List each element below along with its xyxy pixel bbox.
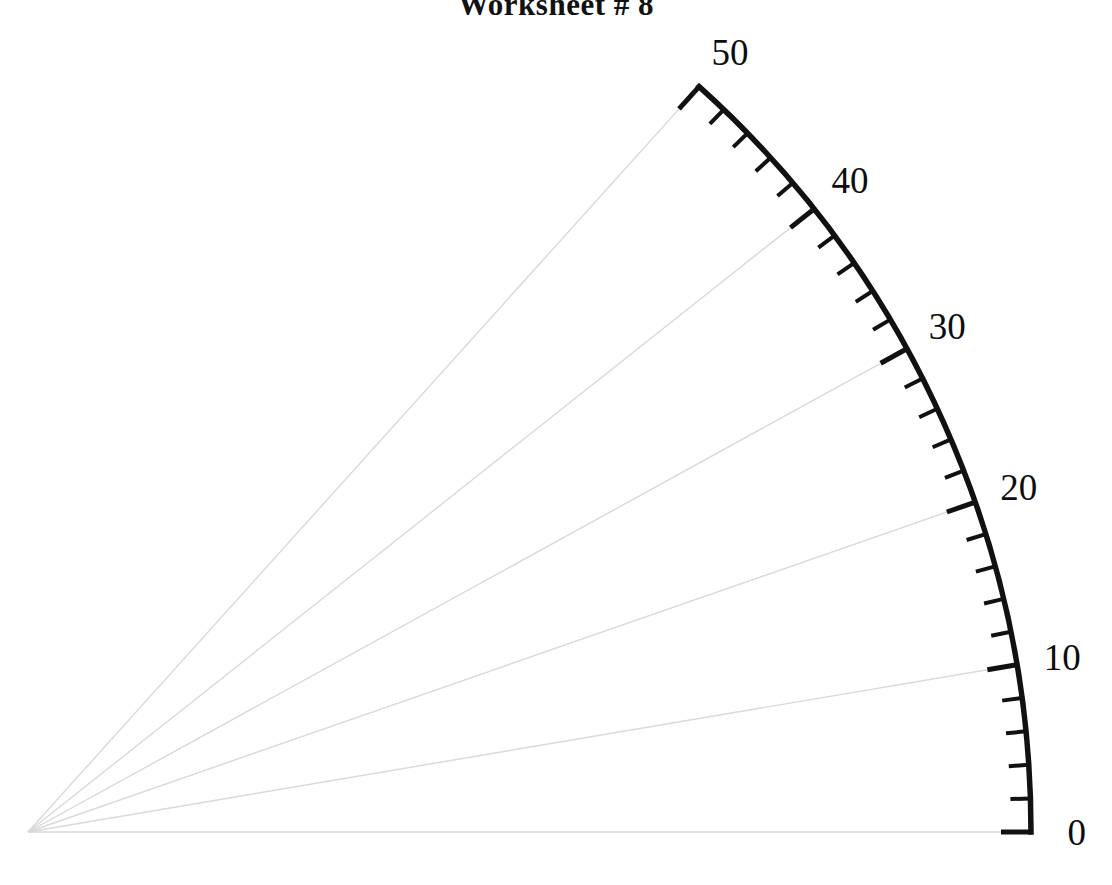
minor-tick-28 xyxy=(905,379,923,388)
tick-label-40: 40 xyxy=(832,162,869,199)
major-tick-50 xyxy=(679,87,699,109)
minor-tick-14 xyxy=(984,599,1003,604)
major-tick-30 xyxy=(881,349,907,363)
minor-tick-6 xyxy=(1006,731,1026,733)
minor-tick-16 xyxy=(976,566,995,571)
major-tick-40 xyxy=(791,209,815,228)
minor-tick-8 xyxy=(1002,698,1022,701)
radial-line-50 xyxy=(28,87,699,832)
minor-tick-48 xyxy=(710,110,724,124)
minor-tick-38 xyxy=(818,236,834,248)
minor-tick-46 xyxy=(733,133,747,147)
minor-tick-32 xyxy=(873,320,890,330)
radial-line-30 xyxy=(28,349,907,832)
minor-tick-2 xyxy=(1010,798,1030,799)
minor-tick-24 xyxy=(933,439,951,447)
minor-tick-22 xyxy=(945,471,964,478)
minor-tick-44 xyxy=(756,158,771,171)
major-tick-10 xyxy=(987,665,1017,670)
tick-label-0: 0 xyxy=(1068,814,1087,851)
polar-scale-figure: Worksheet # 8 0 10 20 30 40 50 xyxy=(0,0,1112,885)
radial-line-10 xyxy=(28,665,1017,832)
polar-scale-drawing xyxy=(0,0,1112,885)
tick-label-50: 50 xyxy=(711,34,748,71)
minor-tick-34 xyxy=(856,291,873,302)
radial-grid-lines xyxy=(28,87,1031,832)
minor-tick-4 xyxy=(1009,765,1029,766)
minor-tick-42 xyxy=(777,183,792,196)
minor-tick-18 xyxy=(967,534,986,540)
tick-label-20: 20 xyxy=(1000,469,1037,506)
tick-label-10: 10 xyxy=(1044,639,1081,676)
minor-tick-26 xyxy=(919,409,937,417)
minor-tick-12 xyxy=(991,632,1011,636)
radial-line-20 xyxy=(28,502,975,832)
minor-tick-36 xyxy=(838,263,854,274)
tick-label-30: 30 xyxy=(929,308,966,345)
radial-line-40 xyxy=(28,209,814,832)
major-tick-20 xyxy=(947,502,975,512)
